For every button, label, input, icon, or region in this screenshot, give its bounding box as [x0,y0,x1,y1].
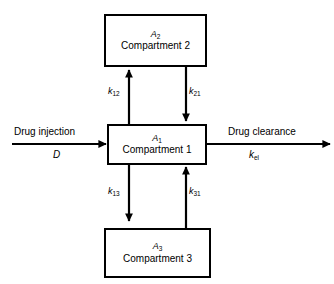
label-kel-symbol: kel [249,149,259,160]
box-compartment-3[interactable]: A3 Compartment 3 [104,228,211,278]
compartment-2-amount: A2 [151,30,161,40]
compartment-3-amount: A3 [153,242,163,252]
compartment-1-label: Compartment 1 [123,144,192,155]
box-compartment-2[interactable]: A2 Compartment 2 [104,14,207,67]
box-compartment-1[interactable]: A1 Compartment 1 [107,124,207,165]
label-k13: k13 [108,186,120,196]
compartment-3-label: Compartment 3 [123,253,192,264]
label-k31: k31 [189,186,201,196]
label-drug-injection: Drug injection [14,126,75,137]
compartment-1-amount: A1 [152,134,162,144]
label-k12: k12 [108,86,120,96]
label-dose-symbol: D [53,149,60,160]
label-drug-clearance: Drug clearance [228,126,296,137]
compartment-2-label: Compartment 2 [121,40,190,51]
label-k21: k21 [189,86,201,96]
compartment-model-diagram: A2 Compartment 2 A1 Compartment 1 A3 Com… [0,0,334,284]
